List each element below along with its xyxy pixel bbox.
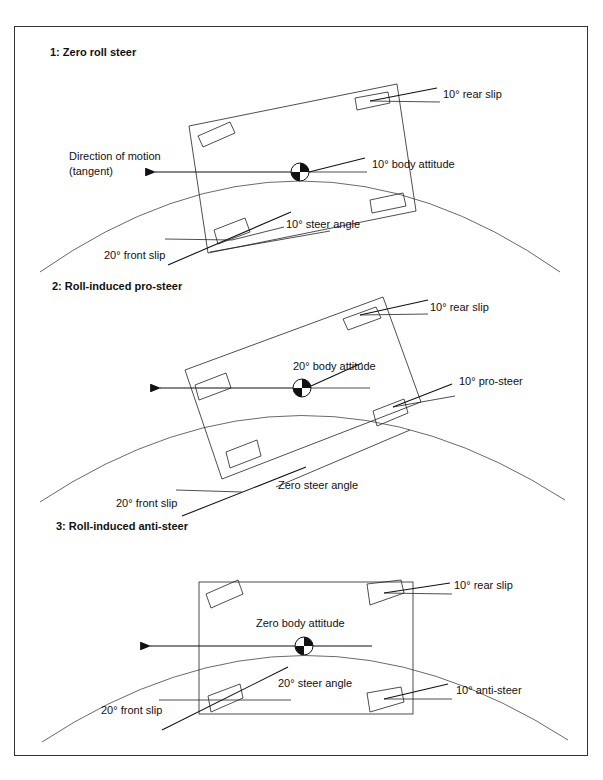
rear-left-wheel — [343, 307, 381, 330]
steer-angle-label: Zero steer angle — [278, 479, 358, 491]
rear-slip-reference-line — [384, 593, 452, 594]
vehicle-steer-diagram: 1: Zero roll steer Direction of motion (… — [0, 0, 603, 780]
front-slip-label: 20° front slip — [101, 704, 162, 716]
anti-steer-line — [384, 684, 448, 699]
rear-right-wheel — [367, 687, 404, 712]
front-right-wheel — [226, 440, 261, 468]
front-reference-line — [176, 490, 242, 492]
direction-label-line2: (tangent) — [69, 165, 113, 177]
body-attitude-label: 20° body attitude — [293, 360, 376, 372]
front-reference-line — [165, 239, 232, 240]
front-slip-line — [182, 467, 306, 516]
rear-slip-reference-line — [360, 314, 428, 315]
pro-steer-label: 10° pro-steer — [459, 375, 523, 387]
center-of-gravity-icon — [291, 163, 309, 181]
center-of-gravity-icon — [295, 637, 313, 655]
front-slip-line — [162, 667, 288, 730]
rear-slip-label: 10° rear slip — [430, 301, 489, 313]
panel-roll-induced-anti-steer: 3: Roll-induced anti-steer Zero body att… — [42, 520, 568, 742]
body-attitude-label: Zero body attitude — [256, 617, 345, 629]
pro-steer-line — [393, 384, 452, 407]
panel-2-title: 2: Roll-induced pro-steer — [52, 280, 183, 292]
cornering-path-arc — [42, 655, 568, 742]
body-attitude-label: 10° body attitude — [372, 158, 455, 170]
panel-zero-roll-steer: 1: Zero roll steer Direction of motion (… — [40, 46, 560, 272]
rear-slip-label: 10° rear slip — [443, 88, 502, 100]
front-left-wheel — [206, 580, 243, 608]
rear-slip-line — [370, 88, 437, 101]
rear-slip-line — [384, 583, 450, 593]
body-attitude-line — [309, 158, 365, 172]
panel-1-title: 1: Zero roll steer — [50, 46, 137, 58]
steer-angle-label: 10° steer angle — [286, 218, 360, 230]
rear-slip-line — [360, 300, 428, 315]
rear-slip-label: 10° rear slip — [454, 579, 513, 591]
front-left-wheel — [198, 122, 235, 147]
anti-steer-label: 10° anti-steer — [456, 684, 522, 696]
rear-slip-reference-line — [370, 101, 440, 102]
front-slip-line — [168, 212, 291, 265]
panel-roll-induced-pro-steer: 2: Roll-induced pro-steer 20° body attit… — [40, 280, 565, 516]
steer-angle-label: 20° steer angle — [278, 677, 352, 689]
front-slip-label: 20° front slip — [104, 249, 165, 261]
direction-label-line1: Direction of motion — [69, 150, 161, 162]
center-of-gravity-icon — [293, 379, 311, 397]
front-left-wheel — [195, 373, 231, 400]
rear-right-wheel — [370, 193, 406, 213]
pro-steer-reference-line — [393, 396, 455, 407]
steer-angle-leader — [210, 231, 330, 252]
panel-3-title: 3: Roll-induced anti-steer — [56, 520, 189, 532]
front-slip-label: 20° front slip — [116, 497, 177, 509]
